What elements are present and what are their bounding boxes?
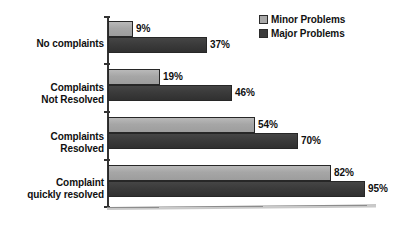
bar-major-no-complaints bbox=[108, 37, 207, 53]
bar-minor-complaints-not-resolved bbox=[108, 69, 160, 85]
axis-tick bbox=[104, 159, 110, 161]
bar-value-major: 46% bbox=[235, 86, 255, 99]
category-label-no-complaints: No complaints bbox=[0, 38, 104, 50]
bar-minor-complaints-resolved bbox=[108, 117, 255, 133]
category-label-complaints-resolved: Complaints Resolved bbox=[0, 131, 104, 155]
category-label-line: Not Resolved bbox=[0, 94, 104, 106]
category-label-line: No complaints bbox=[0, 38, 104, 50]
category-label-line: Complaint bbox=[0, 177, 104, 189]
category-label-line: Complaints bbox=[0, 82, 104, 94]
category-label-complaint-quickly-resolved: Complaint quickly resolved bbox=[0, 177, 104, 201]
bar-value-major: 95% bbox=[368, 182, 388, 195]
bar-minor-no-complaints bbox=[108, 21, 133, 37]
value-axis-baseline bbox=[107, 204, 376, 210]
bar-value-minor: 19% bbox=[163, 70, 183, 83]
axis-tick bbox=[104, 111, 110, 113]
bar-major-complaints-resolved bbox=[108, 133, 298, 149]
bar-value-minor: 82% bbox=[334, 166, 354, 179]
bar-major-complaint-quickly-resolved bbox=[108, 181, 365, 197]
bar-chart: Minor Problems Major Problems No complai… bbox=[0, 0, 394, 225]
bar-value-minor: 54% bbox=[258, 118, 278, 131]
bar-major-complaints-not-resolved bbox=[108, 85, 232, 101]
category-label-line: Complaints bbox=[0, 131, 104, 143]
axis-tick bbox=[104, 63, 110, 65]
bar-minor-complaint-quickly-resolved bbox=[108, 165, 331, 181]
bar-value-major: 37% bbox=[210, 38, 230, 51]
bar-value-major: 70% bbox=[301, 134, 321, 147]
category-axis-labels: No complaints Complaints Not Resolved Co… bbox=[0, 0, 104, 225]
axis-tick bbox=[104, 16, 110, 18]
category-label-complaints-not-resolved: Complaints Not Resolved bbox=[0, 82, 104, 106]
bar-value-minor: 9% bbox=[136, 22, 150, 35]
category-label-line: Resolved bbox=[0, 143, 104, 155]
category-label-line: quickly resolved bbox=[0, 189, 104, 201]
plot-area: 9% 37% 19% 46% 54% 70% 82% bbox=[107, 16, 394, 209]
